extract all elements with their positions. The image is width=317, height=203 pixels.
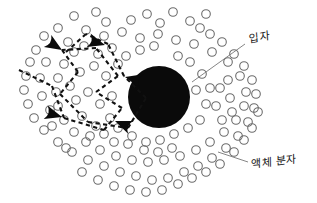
liquid-molecule (26, 58, 35, 67)
liquid-molecule (54, 74, 63, 83)
trajectory-segment (66, 34, 86, 52)
liquid-molecule (150, 42, 159, 51)
liquid-molecule (218, 116, 227, 125)
liquid-molecule (156, 19, 165, 28)
liquid-molecule (242, 88, 251, 97)
liquid-molecule (128, 156, 137, 165)
liquid-molecule (212, 102, 221, 111)
liquid-molecule (240, 136, 249, 145)
liquid-molecule (118, 28, 127, 37)
liquid-molecule (226, 94, 235, 103)
liquid-molecule (208, 154, 217, 163)
liquid-molecule (176, 152, 185, 161)
liquid-molecule (252, 90, 261, 99)
liquid-molecule (240, 62, 249, 71)
liquid-molecule (48, 122, 57, 131)
liquid-molecule (40, 126, 49, 135)
liquid-molecule (158, 186, 167, 195)
liquid-molecule (32, 46, 41, 55)
liquid-molecule (64, 38, 73, 47)
liquid-molecule (188, 174, 197, 183)
liquid-molecule (228, 108, 237, 117)
liquid-molecule (54, 138, 63, 147)
liquid-molecule (196, 24, 205, 33)
liquid-molecule (240, 102, 249, 111)
liquid-molecule (112, 152, 121, 161)
liquid-molecule (68, 148, 77, 157)
liquid-molecule (82, 138, 91, 147)
liquid-molecule (136, 34, 145, 43)
liquid-molecule (110, 138, 119, 147)
liquid-molecule (100, 32, 109, 41)
liquid-molecule (168, 144, 177, 153)
liquid-molecule (116, 168, 125, 177)
liquid-molecule (230, 148, 239, 157)
liquid-molecule (62, 144, 71, 153)
liquid-molecule (196, 116, 205, 125)
liquid-molecule (92, 8, 101, 17)
liquid-molecule (70, 12, 79, 21)
liquid-molecule (30, 114, 39, 123)
liquid-molecule (82, 26, 91, 35)
liquid-molecule (186, 17, 195, 26)
liquid-molecule (148, 176, 157, 185)
liquid-molecule (172, 36, 181, 45)
liquid-molecule (78, 168, 87, 177)
liquid-molecule (90, 62, 99, 71)
liquid-molecule (174, 52, 183, 61)
liquid-molecule (202, 10, 211, 19)
liquid-molecule (20, 86, 29, 95)
liquid-molecule (234, 132, 243, 141)
liquid-molecule (142, 138, 151, 147)
liquid-molecule (84, 156, 93, 165)
brownian-motion-diagram: 입자 액체 분자 (0, 0, 317, 203)
liquid-molecule (24, 100, 33, 109)
liquid-molecule (86, 132, 95, 141)
liquid-molecule (154, 30, 163, 39)
liquid-molecule (72, 96, 81, 105)
liquid-molecule (206, 84, 215, 93)
liquid-molecule (110, 182, 119, 191)
liquid-molecule (142, 188, 151, 197)
liquid-molecule (128, 132, 137, 141)
liquid-molecule (236, 72, 245, 81)
liquid-molecule (38, 92, 47, 101)
liquid-molecule (70, 128, 79, 137)
liquid-molecule (102, 18, 111, 27)
liquid-molecule (232, 116, 241, 125)
liquid-molecule (248, 124, 257, 133)
liquid-molecule (192, 86, 201, 95)
liquid-molecule (206, 30, 215, 39)
liquid-molecule (164, 174, 173, 183)
liquid-molecule (190, 40, 199, 49)
trajectory-segment (96, 76, 118, 92)
liquid-molecule (127, 16, 136, 25)
liquid-molecule (160, 156, 169, 165)
liquid-molecule (244, 118, 253, 127)
liquid-molecule (94, 176, 103, 185)
liquid-molecule (100, 162, 109, 171)
liquid-molecule (180, 168, 189, 177)
liquid-molecule (100, 130, 109, 139)
liquid-molecule (208, 48, 217, 57)
liquid-molecule (114, 60, 123, 69)
diagram-canvas (0, 0, 317, 203)
liquid-molecule (169, 8, 178, 17)
liquid-molecule (170, 130, 179, 139)
liquid-molecule (202, 168, 211, 177)
liquid-molecule (96, 100, 105, 109)
liquid-molecule (124, 140, 133, 149)
liquid-molecule (216, 160, 225, 169)
liquid-molecule (194, 162, 203, 171)
liquid-molecule (143, 10, 152, 19)
liquid-molecule (202, 100, 211, 109)
liquid-molecule (174, 180, 183, 189)
particle-leader-line (192, 44, 245, 82)
liquid-molecule (206, 138, 215, 147)
liquid-molecule (192, 146, 201, 155)
liquid-molecule (54, 24, 63, 33)
liquid-molecule (224, 58, 233, 67)
liquid-molecule (84, 88, 93, 97)
liquid-molecule (102, 72, 111, 81)
liquid-molecule (136, 46, 145, 55)
